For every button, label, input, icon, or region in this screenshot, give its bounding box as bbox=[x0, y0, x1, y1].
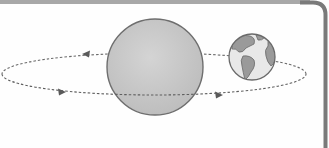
orbit-diagram bbox=[0, 0, 329, 148]
diagram-frame bbox=[0, 0, 329, 148]
top-border bbox=[0, 0, 310, 4]
earth-globe-icon bbox=[229, 34, 276, 80]
large-sphere bbox=[107, 19, 203, 115]
